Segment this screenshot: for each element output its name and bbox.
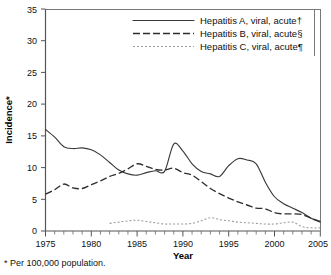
x-tick-label-2005: 2005 [308,239,328,249]
y-tick-label-15: 15 [27,131,37,141]
x-tick-label-2000: 2000 [264,239,284,249]
x-axis-major-ticks [46,231,321,237]
y-tick-label-10: 10 [27,163,37,173]
x-axis-tick-labels: 1975 1980 1985 1990 1995 2000 2005 [35,239,328,249]
y-tick-label-30: 30 [27,36,37,46]
x-axis-title: Year [173,250,193,261]
x-tick-label-1980: 1980 [81,239,101,249]
legend-label-hepatitis-c: Hepatitis C, viral, acute¶ [200,41,303,52]
y-tick-label-25: 25 [27,68,37,78]
data-series-group [46,130,321,228]
x-tick-label-1985: 1985 [127,239,147,249]
y-tick-label-20: 20 [27,99,37,109]
incidence-line-chart: 0 5 10 15 20 25 30 35 Incidence* 1975 19… [0,0,331,275]
series-line-hepatitis-b [46,164,321,222]
y-tick-label-5: 5 [32,195,37,205]
chart-figure: 0 5 10 15 20 25 30 35 Incidence* 1975 19… [0,0,331,275]
x-tick-label-1975: 1975 [35,239,55,249]
legend-label-hepatitis-a: Hepatitis A, viral, acute† [200,15,302,26]
footnote-per-100000: * Per 100,000 population. [4,258,106,268]
legend-label-hepatitis-b: Hepatitis B, viral, acute§ [200,28,302,39]
chart-legend: Hepatitis A, viral, acute† Hepatitis B, … [133,10,315,56]
series-line-hepatitis-a [46,130,321,223]
x-tick-label-1990: 1990 [173,239,193,249]
series-line-hepatitis-c [110,218,321,228]
x-tick-label-1995: 1995 [219,239,239,249]
y-axis-ticks: 0 5 10 15 20 25 30 35 [27,5,46,237]
y-axis-title: Incidence* [3,96,14,144]
y-tick-label-0: 0 [32,226,37,236]
y-tick-label-35: 35 [27,5,37,15]
